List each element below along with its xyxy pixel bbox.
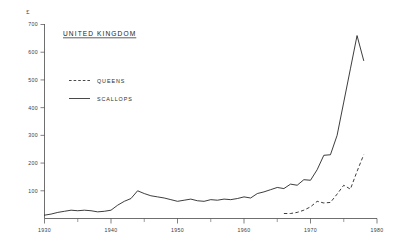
y-tick-label-100: 100 bbox=[28, 188, 38, 194]
x-tick-label-1930: 1930 bbox=[38, 227, 51, 233]
chart-legend: QUEENS SCALLOPS bbox=[69, 78, 133, 102]
y-tick-label-700: 700 bbox=[28, 21, 38, 27]
y-tick-label-300: 300 bbox=[28, 132, 38, 138]
y-axis-currency-label: £ bbox=[26, 8, 30, 16]
y-tick-label-500: 500 bbox=[28, 77, 38, 83]
y-axis-ticks: 100200300400500600700 bbox=[28, 21, 44, 193]
chart-canvas: £ 100200300400500600700 1930194019501960… bbox=[0, 0, 393, 247]
x-tick-label-1960: 1960 bbox=[238, 227, 251, 233]
data-series-layer bbox=[45, 36, 364, 216]
x-tick-label-1940: 1940 bbox=[105, 227, 118, 233]
x-tick-label-1950: 1950 bbox=[171, 227, 184, 233]
legend-label-queens: QUEENS bbox=[97, 78, 125, 84]
y-tick-label-200: 200 bbox=[28, 160, 38, 166]
x-tick-label-1970: 1970 bbox=[304, 227, 317, 233]
x-tick-label-1980: 1980 bbox=[371, 227, 384, 233]
x-axis-ticks: 193019401950196019701980 bbox=[38, 219, 383, 234]
series-line-queens bbox=[284, 155, 364, 214]
chart-title: UNITED KINGDOM bbox=[63, 30, 136, 37]
chart-figure: £ 100200300400500600700 1930194019501960… bbox=[0, 0, 393, 247]
y-tick-label-600: 600 bbox=[28, 49, 38, 55]
series-line-scallops bbox=[45, 36, 364, 216]
legend-label-scallops: SCALLOPS bbox=[97, 96, 133, 102]
y-tick-label-400: 400 bbox=[28, 105, 38, 111]
